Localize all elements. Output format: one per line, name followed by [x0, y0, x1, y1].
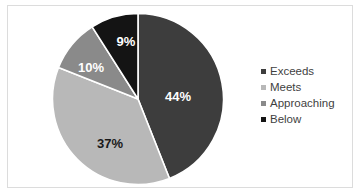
pie-slice-group: [52, 14, 223, 185]
legend-item[interactable]: Meets: [261, 79, 353, 95]
legend-item-label: Meets: [270, 79, 301, 95]
legend-item[interactable]: Exceeds: [261, 63, 353, 79]
legend-item-label: Approaching: [270, 95, 335, 111]
pie-slice-data-label: 10%: [78, 60, 104, 75]
chart-screenshot: 44%37%10%9% ExceedsMeetsApproachingBelow: [0, 0, 359, 194]
legend-item[interactable]: Below: [261, 111, 353, 127]
legend-swatch-icon: [261, 69, 266, 74]
legend-item-label: Below: [270, 111, 301, 127]
pie-slice-data-label: 9%: [117, 34, 136, 49]
legend-item[interactable]: Approaching: [261, 95, 353, 111]
pie-chart-svg: [52, 13, 224, 185]
pie-slice-data-label: 44%: [165, 89, 191, 104]
legend-swatch-icon: [261, 117, 266, 122]
pie-slice-data-label: 37%: [97, 136, 123, 151]
chart-legend: ExceedsMeetsApproachingBelow: [261, 63, 353, 127]
legend-swatch-icon: [261, 85, 266, 90]
legend-item-label: Exceeds: [270, 63, 314, 79]
legend-swatch-icon: [261, 101, 266, 106]
